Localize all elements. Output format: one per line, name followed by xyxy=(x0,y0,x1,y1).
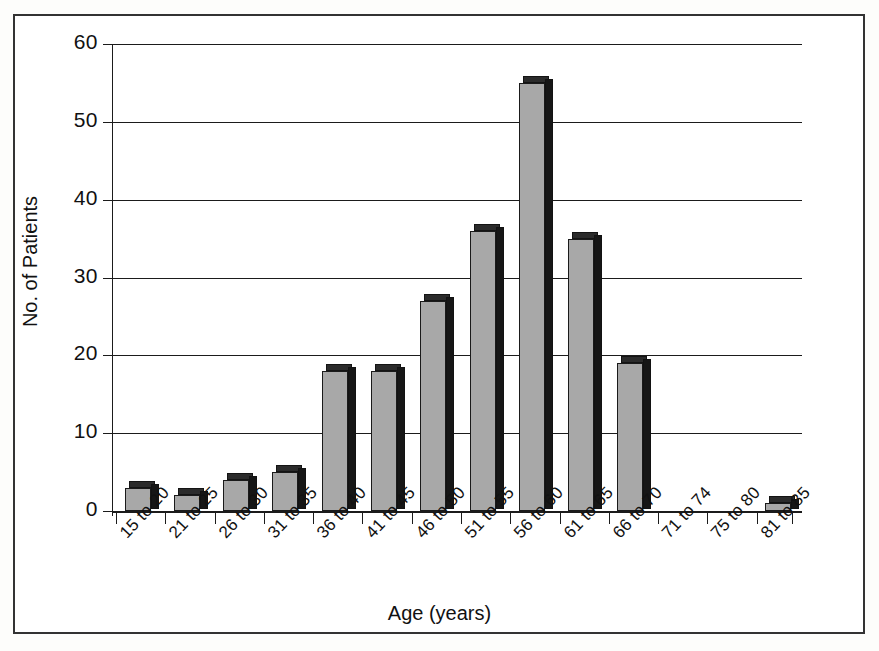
bar-front-face xyxy=(470,231,496,511)
bar-side-face xyxy=(545,79,553,509)
y-tick-mark xyxy=(103,433,112,434)
x-tick-mark xyxy=(165,513,166,524)
y-tick-label: 30 xyxy=(52,264,98,288)
gridline xyxy=(112,433,802,434)
y-tick-mark xyxy=(103,511,112,512)
bar-side-face xyxy=(496,227,504,509)
bar-front-face xyxy=(322,371,348,511)
x-tick-mark xyxy=(313,513,314,524)
bar-front-face xyxy=(371,371,397,511)
y-tick-mark xyxy=(103,278,112,279)
gridline xyxy=(112,122,802,123)
x-tick-mark xyxy=(461,513,462,524)
x-tick-mark xyxy=(264,513,265,524)
x-tick-mark xyxy=(658,513,659,524)
bar-front-face xyxy=(420,301,446,511)
bar xyxy=(519,76,553,511)
x-tick-mark xyxy=(792,513,793,524)
y-tick-label: 10 xyxy=(52,419,98,443)
gridline xyxy=(112,44,802,45)
y-axis-line xyxy=(112,44,113,516)
bar-front-face xyxy=(519,83,545,511)
y-tick-label: 40 xyxy=(52,186,98,210)
y-tick-mark xyxy=(103,44,112,45)
x-tick-mark xyxy=(215,513,216,524)
y-tick-mark xyxy=(103,200,112,201)
x-tick-mark xyxy=(116,513,117,524)
x-tick-mark xyxy=(560,513,561,524)
x-axis-title: Age (years) xyxy=(0,602,879,625)
bar-side-face xyxy=(594,235,602,509)
gridline xyxy=(112,200,802,201)
x-tick-mark xyxy=(362,513,363,524)
y-tick-label: 60 xyxy=(52,30,98,54)
bar xyxy=(568,232,602,511)
x-tick-mark xyxy=(757,513,758,524)
y-tick-label: 0 xyxy=(52,497,98,521)
bar xyxy=(470,224,504,511)
figure-container: 0102030405060 15 to 2021 to 2526 to 3031… xyxy=(0,0,879,651)
x-tick-mark xyxy=(510,513,511,524)
x-tick-mark xyxy=(707,513,708,524)
gridline xyxy=(112,278,802,279)
y-tick-mark xyxy=(103,122,112,123)
bar-side-face xyxy=(446,297,454,509)
bar-front-face xyxy=(568,239,594,511)
bar-front-face xyxy=(617,363,643,511)
x-tick-mark xyxy=(609,513,610,524)
y-tick-mark xyxy=(103,355,112,356)
y-tick-label: 20 xyxy=(52,341,98,365)
y-axis-title: No. of Patients xyxy=(19,152,42,372)
bar xyxy=(420,294,454,511)
y-tick-label: 50 xyxy=(52,108,98,132)
x-tick-mark xyxy=(412,513,413,524)
gridline xyxy=(112,355,802,356)
